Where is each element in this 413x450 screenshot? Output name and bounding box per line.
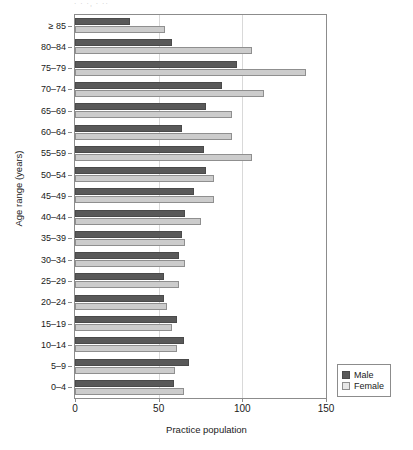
- y-axis-tick-label: 70–74: [41, 84, 66, 94]
- y-axis-tick-label: 30–34: [41, 255, 66, 265]
- bar-female: [75, 281, 179, 288]
- x-axis-tick-mark: [159, 398, 160, 402]
- bar-row: [75, 355, 326, 376]
- plot-area: [74, 14, 327, 399]
- bar-male: [75, 252, 179, 259]
- y-axis-tick-labels: ≥ 8580–8475–7970–7465–6960–6455–5950–544…: [0, 14, 72, 399]
- bar-row: [75, 36, 326, 57]
- y-axis-tick-label: 60–64: [41, 127, 66, 137]
- bar-row: [75, 58, 326, 79]
- bar-male: [75, 316, 177, 323]
- bar-male: [75, 188, 194, 195]
- x-axis-tick-label: 150: [318, 403, 335, 414]
- y-axis-tick-label: 35–39: [41, 233, 66, 243]
- legend-item-male: Male: [342, 370, 384, 380]
- y-axis-tick-mark: [68, 153, 72, 154]
- bar-male: [75, 295, 164, 302]
- y-axis-title: Age range (years): [13, 119, 24, 259]
- bar-female: [75, 69, 306, 76]
- y-axis-tick-label: 80–84: [41, 42, 66, 52]
- x-axis-tick-label: 0: [72, 403, 78, 414]
- legend-swatch-female-icon: [342, 382, 350, 390]
- y-axis-tick-mark: [68, 26, 72, 27]
- bar-female: [75, 196, 214, 203]
- bar-female: [75, 345, 177, 352]
- y-axis-tick-mark: [68, 217, 72, 218]
- x-axis-tick-label: 50: [153, 403, 164, 414]
- x-axis-title: Practice population: [0, 424, 413, 435]
- bar-female: [75, 47, 252, 54]
- bar-male: [75, 337, 184, 344]
- y-axis-tick-mark: [68, 196, 72, 197]
- y-axis-tick-mark: [68, 302, 72, 303]
- bar-row: [75, 249, 326, 270]
- x-axis-tick-mark: [75, 398, 76, 402]
- legend-swatch-male-icon: [342, 371, 350, 379]
- y-axis-tick-mark: [68, 111, 72, 112]
- bar-row: [75, 164, 326, 185]
- y-axis-tick-label: 20–24: [41, 297, 66, 307]
- bar-rows: [75, 15, 326, 398]
- legend: Male Female: [337, 364, 391, 397]
- bar-male: [75, 210, 185, 217]
- bar-row: [75, 100, 326, 121]
- y-axis-tick-mark: [68, 366, 72, 367]
- bar-row: [75, 15, 326, 36]
- y-axis-tick-label: 0–4: [51, 382, 66, 392]
- y-axis-tick-label: 50–54: [41, 170, 66, 180]
- bar-row: [75, 121, 326, 142]
- bar-male: [75, 231, 182, 238]
- y-axis-tick-label: 5–9: [51, 361, 66, 371]
- y-axis-tick-mark: [68, 345, 72, 346]
- bar-female: [75, 367, 175, 374]
- bar-male: [75, 359, 189, 366]
- y-axis-tick-mark: [68, 238, 72, 239]
- y-axis-tick-mark: [68, 281, 72, 282]
- x-axis-tick-mark: [242, 398, 243, 402]
- bar-female: [75, 111, 232, 118]
- y-axis-tick-label: 40–44: [41, 212, 66, 222]
- bar-male: [75, 61, 237, 68]
- bar-row: [75, 270, 326, 291]
- bar-row: [75, 313, 326, 334]
- bar-row: [75, 334, 326, 355]
- y-axis-tick-label: 45–49: [41, 191, 66, 201]
- y-axis-tick-label: 10–14: [41, 340, 66, 350]
- y-axis-tick-mark: [68, 324, 72, 325]
- y-axis-tick-label: 75–79: [41, 63, 66, 73]
- bar-male: [75, 103, 206, 110]
- legend-item-female: Female: [342, 381, 384, 391]
- bar-male: [75, 82, 222, 89]
- bar-female: [75, 26, 165, 33]
- y-axis-tick-mark: [68, 260, 72, 261]
- bar-male: [75, 39, 172, 46]
- legend-label-male: Male: [354, 370, 374, 380]
- bar-row: [75, 377, 326, 398]
- bar-female: [75, 175, 214, 182]
- bar-row: [75, 185, 326, 206]
- cropped-title-fragment: · · ·, · ··: [74, 0, 327, 10]
- bar-row: [75, 79, 326, 100]
- y-axis-tick-mark: [68, 47, 72, 48]
- y-axis-tick-label: 55–59: [41, 148, 66, 158]
- x-axis-tick-labels: 050100150: [0, 401, 413, 417]
- bar-male: [75, 125, 182, 132]
- bar-row: [75, 228, 326, 249]
- bar-male: [75, 146, 204, 153]
- bar-female: [75, 303, 167, 310]
- y-axis-tick-mark: [68, 89, 72, 90]
- bar-row: [75, 143, 326, 164]
- chart-figure: · · ·, · ·· ≥ 8580–8475–7970–7465–6960–6…: [0, 0, 413, 450]
- y-axis-tick-mark: [68, 68, 72, 69]
- y-axis-tick-mark: [68, 175, 72, 176]
- bar-row: [75, 207, 326, 228]
- bar-male: [75, 167, 206, 174]
- y-axis-tick-mark: [68, 387, 72, 388]
- y-axis-tick-label: 65–69: [41, 106, 66, 116]
- bar-female: [75, 133, 232, 140]
- bar-female: [75, 324, 172, 331]
- bar-male: [75, 380, 174, 387]
- bar-female: [75, 218, 201, 225]
- bar-female: [75, 154, 252, 161]
- bar-row: [75, 292, 326, 313]
